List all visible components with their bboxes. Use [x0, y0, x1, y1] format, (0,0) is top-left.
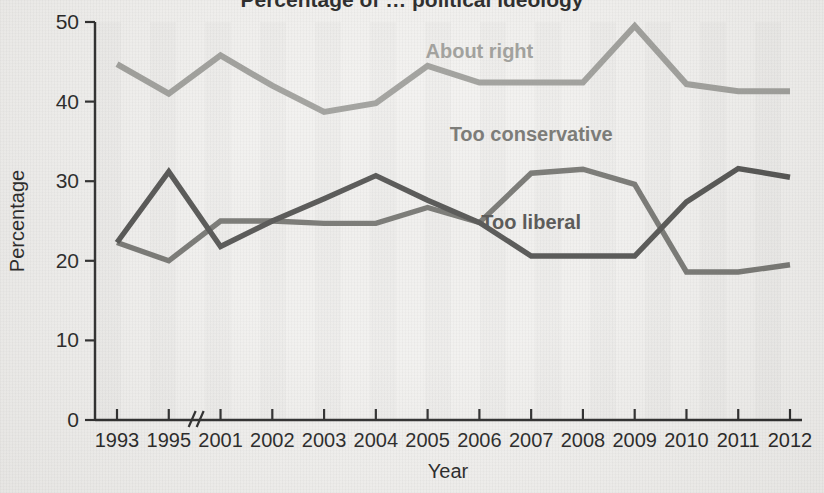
- series-label-about-right: About right: [426, 40, 534, 62]
- series-label-too-conservative: Too conservative: [450, 123, 613, 145]
- y-tick-label-30: 30: [56, 169, 79, 192]
- x-tick-label-2003: 2003: [302, 429, 347, 451]
- x-tick-label-2006: 2006: [457, 429, 502, 451]
- data-series-group: [117, 26, 790, 272]
- line-chart: 01020304050 1993199520012002200320042005…: [0, 0, 824, 493]
- x-tick-label-2012: 2012: [768, 429, 813, 451]
- x-tick-label-2011: 2011: [717, 429, 760, 451]
- x-tick-label-2010: 2010: [664, 429, 709, 451]
- x-tick-label-1995: 1995: [147, 429, 192, 451]
- y-tick-label-40: 40: [56, 90, 79, 113]
- x-tick-label-2009: 2009: [612, 429, 657, 451]
- x-tick-label-2004: 2004: [354, 429, 399, 451]
- x-axis-title: Year: [428, 460, 469, 482]
- x-tick-label-2002: 2002: [250, 429, 295, 451]
- y-tick-label-0: 0: [67, 408, 79, 431]
- series-label-too-liberal: Too liberal: [481, 211, 581, 233]
- y-tick-label-50: 50: [56, 10, 79, 33]
- x-tick-label-2005: 2005: [405, 429, 450, 451]
- x-tick-group: [117, 409, 790, 420]
- y-tick-label-20: 20: [56, 249, 79, 272]
- x-tick-label-group: 1993199520012002200320042005200620072008…: [95, 429, 813, 451]
- series-label-group: About rightToo conservativeToo liberal: [426, 40, 613, 233]
- y-tick-label-10: 10: [56, 328, 79, 351]
- x-tick-label-2001: 2001: [198, 429, 243, 451]
- x-tick-label-2007: 2007: [509, 429, 554, 451]
- y-axis-title: Percentage: [6, 170, 28, 272]
- series-line-too-conservative: [117, 169, 790, 272]
- series-line-too-liberal: [117, 168, 790, 256]
- x-tick-label-1993: 1993: [95, 429, 140, 451]
- y-tick-group: [85, 22, 95, 420]
- y-tick-label-group: 01020304050: [56, 10, 79, 431]
- x-tick-label-2008: 2008: [561, 429, 606, 451]
